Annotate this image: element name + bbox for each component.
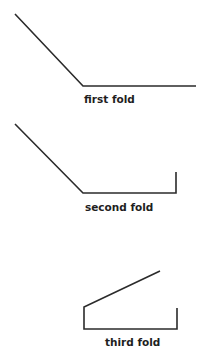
third-fold-shape <box>84 271 177 329</box>
fold-step-third: third fold <box>84 271 177 348</box>
fold-step-first: first fold <box>15 14 196 105</box>
third-fold-label: third fold <box>105 336 160 348</box>
fold-diagram: first fold second fold third fold <box>0 0 204 361</box>
first-fold-label: first fold <box>84 93 135 105</box>
second-fold-label: second fold <box>85 201 153 213</box>
second-fold-shape <box>15 124 176 193</box>
first-fold-shape <box>15 14 196 86</box>
fold-step-second: second fold <box>15 124 176 213</box>
